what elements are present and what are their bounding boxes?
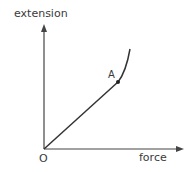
y-axis-arrowhead: [41, 24, 47, 32]
origin-label: O: [39, 153, 48, 164]
force-extension-graph: [0, 0, 190, 172]
nonlinear-curve: [118, 49, 130, 82]
linear-region-line: [44, 82, 118, 149]
point-a-marker: [116, 80, 120, 84]
x-axis-label: force: [139, 152, 167, 163]
x-axis-arrowhead: [176, 146, 184, 152]
y-axis-label: extension: [14, 8, 68, 19]
point-a-label: A: [108, 70, 115, 80]
